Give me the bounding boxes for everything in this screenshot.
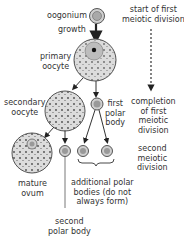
- additional-polar-bodies-brace: [78, 159, 114, 166]
- secondary-oocyte-cell: [45, 91, 85, 131]
- additional-polar-body-1: [78, 146, 89, 157]
- first-polar-body-label: first polar body: [105, 99, 125, 128]
- additional-polar-bodies-label: additional polar bodies (do not always f…: [71, 178, 134, 207]
- first-polar-body-cell: [91, 98, 103, 110]
- oogonium-label: oogonium: [47, 11, 87, 21]
- second-meiotic-division-label: second meiotic division: [137, 144, 168, 173]
- arrow-to-mature-ovum: [46, 127, 54, 136]
- second-polar-body-cell: [60, 146, 71, 157]
- arrow-to-additional-polar-body-1: [85, 110, 95, 141]
- primary-oocyte-cell: [74, 39, 116, 81]
- start-first-meiotic-division-label: start of first meiotic division: [122, 5, 184, 24]
- completion-first-meiotic-division-label: completion of first meiotic division: [131, 97, 176, 135]
- second-polar-body-label: second polar body: [48, 217, 91, 236]
- mature-ovum-cell: [12, 133, 52, 173]
- additional-polar-body-2: [102, 146, 113, 157]
- arrow-to-secondary-oocyte: [74, 78, 83, 88]
- growth-label: growth: [58, 25, 86, 35]
- secondary-oocyte-label: secondary oocyte: [4, 98, 45, 117]
- oogonium-cell: [90, 9, 105, 24]
- primary-oocyte-label: primary oocyte: [40, 52, 71, 71]
- mature-ovum-label: mature ovum: [18, 179, 47, 198]
